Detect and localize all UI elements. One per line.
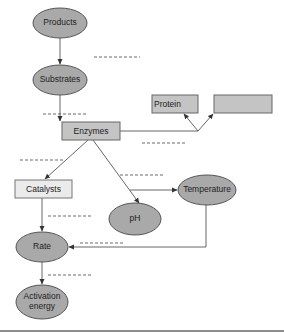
node-enzymes: Enzymes xyxy=(62,122,120,140)
node-products: Products xyxy=(33,8,87,38)
node-activation-label-2: energy xyxy=(29,301,56,311)
node-activation-label-1: Activation xyxy=(24,291,61,301)
node-ph-label: pH xyxy=(130,213,141,223)
node-products-label: Products xyxy=(43,17,77,27)
edge-enzymes-catalysts xyxy=(45,140,88,179)
node-temperature-label: Temperature xyxy=(183,184,231,194)
node-ph: pH xyxy=(109,203,161,235)
node-catalysts: Catalysts xyxy=(15,180,72,198)
node-enzymes-label: Enzymes xyxy=(74,126,109,136)
node-blank-box xyxy=(214,95,272,113)
node-substrates: Substrates xyxy=(33,65,87,95)
edge-enzymes-blank xyxy=(198,114,213,131)
node-activation-energy: Activation energy xyxy=(16,285,68,319)
edge-enzymes-ph xyxy=(93,140,139,203)
node-substrates-label: Substrates xyxy=(40,74,81,84)
edge-enzymes-protein xyxy=(184,114,198,131)
node-rate: Rate xyxy=(16,232,68,262)
node-protein: Protein xyxy=(152,95,198,113)
node-rate-label: Rate xyxy=(33,241,51,251)
node-catalysts-label: Catalysts xyxy=(26,184,61,194)
concept-map: Products Substrates Protein Enzymes Cata… xyxy=(0,0,284,333)
node-protein-label: Protein xyxy=(154,99,181,109)
node-temperature: Temperature xyxy=(178,175,236,205)
